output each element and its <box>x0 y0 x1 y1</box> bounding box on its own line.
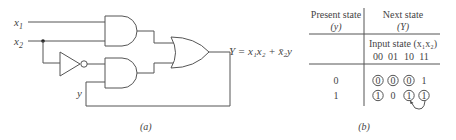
transition-arrow <box>411 101 425 109</box>
header-present-state-var: (y) <box>330 21 342 33</box>
header-next-state-var: (Y) <box>397 21 410 33</box>
inverter-bubble <box>81 61 87 67</box>
next-state-r1-c10: 1 <box>407 90 412 101</box>
next-state-r0-c10: 0 <box>407 75 412 86</box>
feedback-y-label: y <box>76 87 82 99</box>
and-gate-1 <box>105 16 137 46</box>
next-state-r0-c00: 0 <box>376 75 381 86</box>
next-state-r1-c01: 0 <box>391 90 396 101</box>
caption-b: (b) <box>358 121 370 133</box>
next-state-r0-c01: 0 <box>391 75 396 86</box>
next-state-r1-c00: 1 <box>376 90 381 101</box>
wire-and2-to-or <box>137 63 174 73</box>
present-state-0: 0 <box>334 75 339 86</box>
input-state-label: Input state (x₁x₂) <box>369 38 437 50</box>
next-state-r0-c11: 1 <box>422 75 427 86</box>
col-01: 01 <box>388 51 398 62</box>
present-state-1: 1 <box>334 90 339 101</box>
or-gate <box>171 37 209 68</box>
col-00: 00 <box>373 51 383 62</box>
wire-x2-to-inverter <box>43 41 60 63</box>
caption-a: (a) <box>140 121 152 133</box>
arrowhead-icon <box>410 101 414 105</box>
header-next-state: Next state <box>383 9 424 20</box>
col-11: 11 <box>419 51 429 62</box>
and-gate-2 <box>105 58 137 88</box>
diagram-canvas: x1 x2 y (a) Y = x₁x₂ + x̄₂y <box>0 0 456 140</box>
not-gate <box>60 52 80 76</box>
input-x1-label: x1 <box>13 16 23 31</box>
wire-and1-to-or <box>137 31 174 43</box>
state-table: Present state (y) Next state (Y) Input s… <box>309 8 440 133</box>
col-10: 10 <box>404 51 414 62</box>
header-present-state: Present state <box>311 9 362 20</box>
input-x2-label: x2 <box>13 35 23 50</box>
output-equation: Y = x₁x₂ + x̄₂y <box>229 45 292 57</box>
logic-circuit: x1 x2 y (a) <box>13 16 230 133</box>
next-state-r1-c11: 1 <box>422 90 427 101</box>
